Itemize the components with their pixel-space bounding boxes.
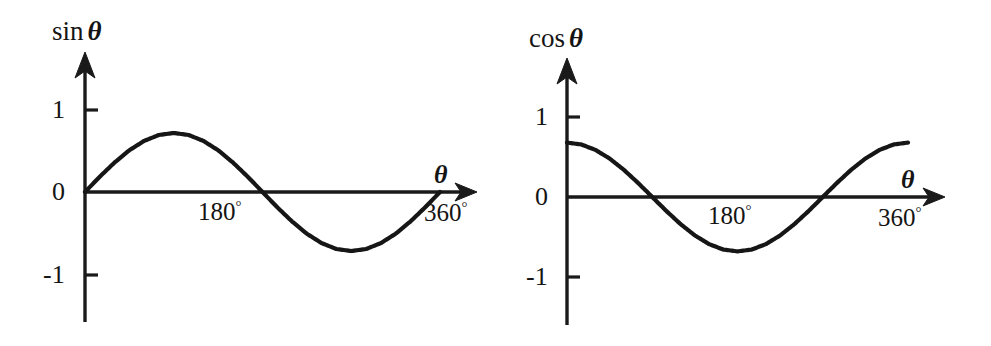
cosine-xtick-label-360: 360° xyxy=(878,205,922,230)
cosine-xtick-label-180: 180° xyxy=(708,203,752,228)
trig-graphs-figure: sinθ 1 0 -1 180° 360° θ cosθ 1 0 -1 180°… xyxy=(0,0,991,346)
cosine-axis-title: cosθ xyxy=(529,25,583,52)
cosine-ytick-label-0: 0 xyxy=(535,184,548,210)
cosine-ytick-label-neg1: -1 xyxy=(526,264,548,290)
cosine-ytick-label-1: 1 xyxy=(535,104,548,130)
cosine-xtick-180-value: 180 xyxy=(708,202,746,229)
cosine-xaxis-title: θ xyxy=(901,167,915,193)
cosine-chart-canvas xyxy=(0,0,991,346)
cosine-axis-title-text: cos xyxy=(529,23,565,53)
degree-icon-cosine-180: ° xyxy=(746,202,752,218)
degree-icon-cosine-360: ° xyxy=(916,204,922,220)
theta-symbol-cosine-title: θ xyxy=(569,23,583,53)
cosine-xtick-360-value: 360 xyxy=(878,204,916,231)
